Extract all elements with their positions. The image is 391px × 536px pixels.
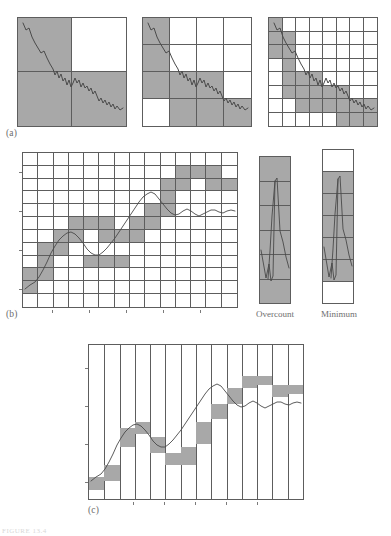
grid-cell bbox=[69, 230, 84, 243]
column-minmax-box bbox=[120, 428, 135, 446]
grid-cell bbox=[143, 18, 170, 45]
grid-cell bbox=[99, 268, 114, 281]
grid-cell bbox=[99, 166, 114, 179]
grid-cell bbox=[176, 204, 191, 217]
panel-a-grid-1 bbox=[17, 17, 127, 127]
grid-cell bbox=[145, 268, 160, 281]
grid-cell bbox=[145, 204, 160, 217]
box-grid-2x2 bbox=[17, 17, 127, 127]
grid-cell bbox=[206, 217, 221, 230]
grid-cell bbox=[197, 72, 224, 99]
grid-cell bbox=[115, 268, 130, 281]
grid-cell bbox=[296, 113, 310, 127]
grid-cell bbox=[38, 230, 53, 243]
grid-cell bbox=[191, 256, 206, 269]
grid-cell bbox=[170, 99, 197, 126]
grid-cell bbox=[143, 72, 170, 99]
grid-cell bbox=[364, 113, 378, 127]
grid-cell bbox=[269, 45, 283, 59]
grid-cell bbox=[115, 179, 130, 192]
grid-cell bbox=[170, 72, 197, 99]
grid-cell bbox=[130, 230, 145, 243]
grid-cell bbox=[176, 268, 191, 281]
grid-cell bbox=[69, 256, 84, 269]
bar-cell bbox=[323, 260, 353, 282]
grid-cell bbox=[23, 256, 38, 269]
grid-cell bbox=[69, 166, 84, 179]
axis-tick bbox=[85, 406, 88, 407]
bar-cell bbox=[260, 182, 290, 207]
grid-cell bbox=[222, 217, 237, 230]
grid-cell bbox=[38, 243, 53, 256]
grid-cell bbox=[176, 153, 191, 166]
grid-cell bbox=[161, 281, 176, 294]
grid-cell bbox=[145, 243, 160, 256]
grid-cell bbox=[130, 294, 145, 307]
column-divider bbox=[181, 345, 182, 499]
column-minmax-box bbox=[211, 404, 226, 419]
grid-cell bbox=[176, 217, 191, 230]
grid-cell bbox=[224, 45, 251, 72]
grid-cell bbox=[130, 204, 145, 217]
grid-cell bbox=[323, 72, 337, 86]
grid-cell bbox=[283, 18, 297, 32]
grid-cell bbox=[350, 113, 364, 127]
axis-tick bbox=[85, 368, 88, 369]
grid-cell bbox=[337, 99, 351, 113]
grid-cell bbox=[115, 217, 130, 230]
grid-cell bbox=[38, 153, 53, 166]
grid-cell bbox=[224, 99, 251, 126]
grid-cell bbox=[176, 281, 191, 294]
column-divider bbox=[120, 345, 121, 499]
grid-cell bbox=[161, 256, 176, 269]
column-divider bbox=[288, 345, 289, 499]
grid-cell bbox=[38, 204, 53, 217]
panel-a: (a) bbox=[0, 0, 391, 142]
grid-cell bbox=[69, 268, 84, 281]
grid-cell bbox=[69, 153, 84, 166]
grid-cell bbox=[206, 153, 221, 166]
bar-cell bbox=[260, 206, 290, 231]
column-minmax-box bbox=[227, 388, 242, 403]
axis-tick bbox=[164, 502, 165, 505]
grid-cell bbox=[84, 294, 99, 307]
grid-cell bbox=[23, 217, 38, 230]
grid-cell bbox=[191, 191, 206, 204]
overcount-label: Overcount bbox=[244, 309, 306, 319]
grid-cell bbox=[310, 59, 324, 73]
grid-cell bbox=[191, 204, 206, 217]
grid-cell bbox=[130, 179, 145, 192]
grid-cell bbox=[364, 99, 378, 113]
grid-cell bbox=[206, 166, 221, 179]
grid-cell bbox=[145, 191, 160, 204]
grid-cell bbox=[283, 99, 297, 113]
grid-cell bbox=[283, 86, 297, 100]
grid-cell bbox=[269, 86, 283, 100]
grid-cell bbox=[161, 166, 176, 179]
grid-cell bbox=[170, 18, 197, 45]
grid-cell bbox=[176, 256, 191, 269]
grid-cell bbox=[38, 179, 53, 192]
grid-cell bbox=[296, 72, 310, 86]
grid-cell bbox=[38, 281, 53, 294]
grid-cell bbox=[269, 113, 283, 127]
axis-tick bbox=[126, 310, 127, 313]
grid-cell bbox=[23, 281, 38, 294]
bar-cell bbox=[323, 150, 353, 172]
faint-caption: FIGURE 13.4 bbox=[2, 527, 47, 535]
grid-cell bbox=[115, 191, 130, 204]
grid-cell bbox=[54, 281, 69, 294]
grid-cell bbox=[23, 243, 38, 256]
grid-cell bbox=[337, 72, 351, 86]
grid-cell bbox=[191, 268, 206, 281]
bar-cell bbox=[323, 238, 353, 260]
grid-cell bbox=[269, 99, 283, 113]
grid-cell bbox=[296, 18, 310, 32]
grid-cell bbox=[115, 204, 130, 217]
grid-cell bbox=[222, 230, 237, 243]
column-divider bbox=[150, 345, 151, 499]
grid-cell bbox=[115, 281, 130, 294]
grid-cell bbox=[115, 294, 130, 307]
grid-cell bbox=[18, 18, 72, 72]
grid-cell bbox=[69, 191, 84, 204]
